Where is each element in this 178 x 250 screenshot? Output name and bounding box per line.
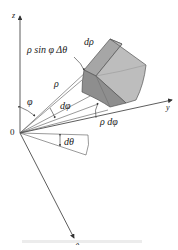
z-axis-label: z bbox=[12, 12, 15, 20]
d-theta-label: dθ bbox=[64, 137, 74, 147]
arc-theta-leader bbox=[74, 57, 84, 70]
phi-arc bbox=[20, 107, 35, 116]
rho-label: ρ bbox=[54, 79, 59, 89]
d-phi-label: dφ bbox=[60, 101, 71, 111]
arc-theta-label: ρ sin φ Δθ bbox=[27, 45, 67, 55]
origin-label: 0 bbox=[10, 128, 15, 137]
d-rho-label: dρ bbox=[84, 37, 94, 47]
y-axis-label: y bbox=[166, 104, 170, 112]
volume-element-box bbox=[82, 39, 146, 107]
rho-d-phi-label: ρ dφ bbox=[100, 117, 118, 127]
phi-label: φ bbox=[27, 97, 33, 107]
d-theta-wedge bbox=[20, 133, 89, 155]
faint-caption bbox=[22, 240, 142, 243]
x-axis bbox=[20, 133, 74, 238]
